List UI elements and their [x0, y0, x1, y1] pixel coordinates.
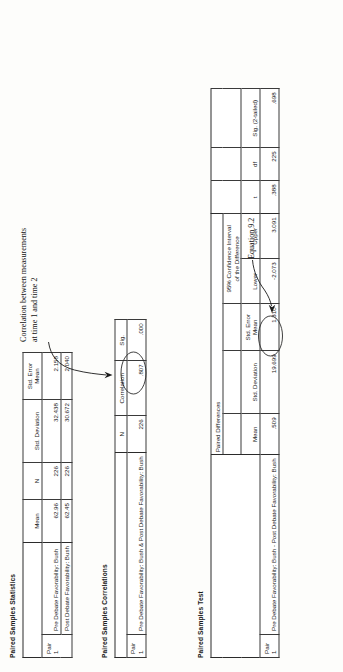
spss-table-statistics: Mean N Std. Deviation Std. Error Mean Pa… [22, 352, 72, 658]
table-paired-samples-correlations: N Correlation Sig. Pair 1 Pre Debate Fav… [114, 319, 146, 658]
cell-row-label: Post Debate Favorability: Bush [60, 543, 72, 635]
header-sd-spacer [222, 351, 241, 414]
spss-table-correlations: N Correlation Sig. Pair 1 Pre Debate Fav… [114, 319, 146, 658]
table-row: Pair 1 Pre Debate Favorability: Bush & P… [126, 320, 145, 658]
annotation-correlation-line1: Correlation between measurements [18, 228, 29, 342]
column-header-t: t [241, 181, 260, 214]
column-header-std-error-mean: Std. Error Mean [241, 304, 260, 351]
column-header-std-deviation: Std. Deviation [241, 351, 260, 414]
cell-pair-label: Pair 1 [126, 635, 145, 658]
cell-t: .388 [260, 181, 279, 214]
cell-row-label: Pre Debate Favorability: Bush - Post Deb… [260, 455, 279, 635]
column-header-mean: Mean [23, 500, 42, 543]
header-pair-spacer [23, 635, 42, 658]
column-header-std-error-mean-text: Std. Error Mean [243, 314, 257, 340]
cell-std-error-mean: 2.040 [60, 353, 72, 400]
cell-mean: 62.96 [42, 500, 61, 543]
header-df-spacer [211, 148, 241, 181]
table-title-statistics: Paired Samples Statistics [8, 574, 15, 658]
ci-header-line1: 95% Confidence Interval [224, 225, 231, 292]
column-header-df: df [241, 148, 260, 181]
header-label-spacer [211, 455, 260, 635]
table-block-paired-samples-correlations: Paired Samples Correlations [100, 564, 107, 658]
cell-ci-upper: 3.091 [260, 214, 279, 259]
column-header-sig: Sig. [115, 320, 127, 361]
table-header-row: N Correlation Sig. [115, 320, 127, 658]
table-row: Post Debate Favorability: Bush 62.45 226… [60, 353, 72, 658]
cell-pair-label: Pair 1 [42, 635, 61, 658]
table-header-row-group: Paired Differences [211, 89, 223, 658]
cell-n: 226 [60, 463, 72, 500]
header-pair-spacer [115, 635, 127, 658]
cell-sig-2tailed: .698 [260, 89, 279, 148]
column-header-correlation: Correlation [115, 361, 127, 416]
cell-ci-lower: -2.073 [260, 259, 279, 304]
header-confidence-interval: 95% Confidence Interval of the Differenc… [222, 214, 241, 304]
header-label-spacer [23, 543, 42, 635]
cell-n: 226 [126, 416, 145, 453]
table-row: Pair 1 Pre Debate Favorability: Bush 62.… [42, 353, 61, 658]
cell-mean: 62.45 [60, 500, 72, 543]
column-header-n: N [115, 416, 127, 453]
cell-df: 225 [260, 148, 279, 181]
column-header-mean: Mean [241, 414, 260, 455]
cell-sig: .000 [126, 320, 145, 361]
header-sem-spacer [222, 304, 241, 351]
table-title-test: Paired Samples Test [196, 591, 203, 658]
ci-header-line2: of the Difference [232, 236, 239, 281]
cell-n: 226 [42, 463, 61, 500]
column-header-n: N [23, 463, 42, 500]
table-header-row: Mean N Std. Deviation Std. Error Mean [23, 353, 42, 658]
column-header-std-error-mean: Std. Error Mean [23, 353, 42, 400]
table-title-correlations: Paired Samples Correlations [100, 564, 107, 658]
header-pair-spacer [211, 635, 260, 658]
cell-pair-label-continued [60, 635, 72, 658]
column-header-std-error-mean-text: Std. Error Mean [25, 363, 40, 389]
cell-std-deviation: 30.672 [60, 400, 72, 463]
cell-std-error-mean: 2.158 [42, 353, 61, 400]
spss-table-test: Paired Differences 95% Confidence Interv… [210, 88, 279, 658]
scanned-page: Paired Samples Statistics Mean N Std. De… [0, 0, 343, 672]
arrow-head-correlation [104, 372, 112, 378]
header-label-spacer [115, 453, 127, 635]
annotation-correlation-note: Correlation between measurements at time… [18, 228, 40, 342]
header-sig-spacer [211, 89, 241, 148]
pair-label-text: Pair [262, 643, 269, 654]
pair-number-text: 1 [269, 651, 276, 654]
column-header-ci-lower: Lower [241, 259, 260, 304]
group-header-paired-differences: Paired Differences [211, 214, 223, 455]
table-paired-samples-test: Paired Differences 95% Confidence Interv… [210, 88, 279, 658]
table-paired-samples-statistics: Mean N Std. Deviation Std. Error Mean Pa… [22, 352, 72, 658]
header-mean-spacer [222, 414, 241, 455]
column-header-std-deviation: Std. Deviation [23, 400, 42, 463]
cell-std-deviation: 19.699 [260, 351, 279, 414]
table-block-paired-samples-test: Paired Samples Test [196, 591, 203, 658]
column-header-sig-2tailed: Sig. (2-tailed) [241, 89, 260, 148]
pair-label-text: Pair [44, 643, 51, 654]
pair-number-text: 1 [51, 651, 58, 654]
pair-label-text: Pair [128, 643, 135, 654]
cell-correlation: .807 [126, 361, 145, 416]
cell-row-label: Pre Debate Favorability: Bush [42, 543, 61, 635]
cell-mean: .509 [260, 414, 279, 455]
cell-std-error-mean: 1.310 [260, 304, 279, 351]
cell-std-deviation: 32.438 [42, 400, 61, 463]
header-t-spacer [211, 181, 241, 214]
cell-pair-label: Pair 1 [260, 635, 279, 658]
annotation-equation-note: Equation 9.2 [246, 218, 255, 259]
annotation-correlation-line2: at time 1 and time 2 [29, 228, 40, 342]
cell-row-label: Pre Debate Favorability: Bush & Post Deb… [126, 453, 145, 635]
pair-number-text: 1 [136, 651, 143, 654]
table-block-paired-samples-statistics: Paired Samples Statistics [8, 574, 15, 658]
table-row: Pair 1 Pre Debate Favorability: Bush - P… [260, 89, 279, 658]
